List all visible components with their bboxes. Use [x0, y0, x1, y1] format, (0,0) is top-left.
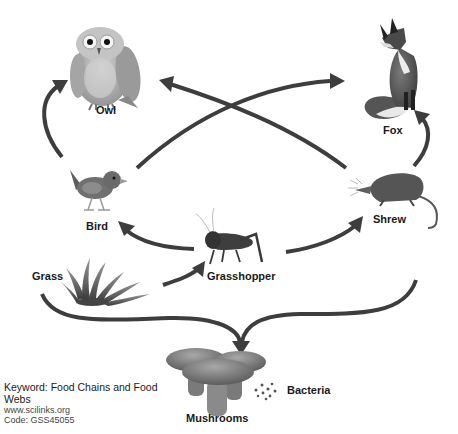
bacteria-icon — [255, 383, 277, 401]
grasshopper-icon — [196, 208, 262, 264]
owl-icon — [70, 27, 144, 110]
code-text: Code: GSS45055 — [4, 415, 164, 425]
keyword-text: Keyword: Food Chains and Food Webs — [4, 381, 158, 405]
grasshopper-label: Grasshopper — [207, 270, 275, 282]
bird-icon — [70, 170, 128, 210]
fox-icon — [365, 18, 418, 119]
scilinks-keyword-box: Keyword: Food Chains and Food Webs www.s… — [4, 382, 164, 425]
arrow-grass-to-grasshopper — [163, 269, 198, 285]
arrow-grasshopper-to-shrew — [286, 226, 355, 252]
owl-label: Owl — [96, 104, 116, 116]
arrow-bird-to-owl — [44, 86, 62, 157]
arrow-grasshopper-to-bird — [126, 230, 194, 249]
bacteria-label: Bacteria — [287, 384, 330, 396]
shrew-label: Shrew — [373, 213, 406, 225]
arrow-shrew-to-mushrooms — [242, 280, 416, 342]
arrow-bird-to-fox — [137, 81, 330, 168]
arrow-shrew-to-fox — [414, 118, 428, 166]
website-link[interactable]: www.scilinks.org — [4, 405, 164, 415]
mushrooms-icon — [166, 348, 266, 416]
arrow-grass-to-mushrooms — [42, 294, 240, 342]
bird-label: Bird — [86, 220, 108, 232]
grass-label: Grass — [32, 270, 63, 282]
fox-label: Fox — [383, 124, 403, 136]
mushrooms-label: Mushrooms — [186, 412, 248, 424]
grass-icon — [58, 258, 150, 306]
